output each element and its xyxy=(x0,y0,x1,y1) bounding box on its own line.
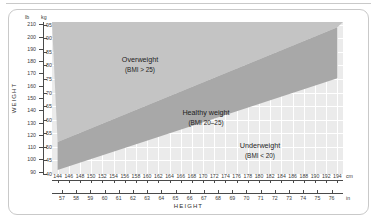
x-tick-in xyxy=(190,190,191,193)
x-tick-in xyxy=(332,190,333,193)
y-tick-lb xyxy=(39,123,44,124)
y-label-lb: 100 xyxy=(14,156,36,162)
y-tick-lb xyxy=(39,61,44,62)
y-label-lb: 110 xyxy=(14,144,36,150)
y-label-kg: 60 xyxy=(46,117,60,123)
region-label-overweight: Overweight (BMI > 25) xyxy=(92,55,188,75)
y-tick-lb xyxy=(39,172,44,173)
x-tick-cm xyxy=(259,180,260,183)
top-divider xyxy=(6,3,371,4)
y-tick-lb xyxy=(39,49,44,50)
x-tick-cm xyxy=(102,180,103,183)
y-tick-lb xyxy=(39,73,44,74)
x-tick-cm xyxy=(114,180,115,183)
region-label-underweight: Underweight (BMI < 20) xyxy=(208,141,312,161)
x-axis-unit-in: in xyxy=(346,195,350,201)
x-tick-cm xyxy=(237,180,238,183)
underweight-sublabel: (BMI < 20) xyxy=(208,151,312,160)
x-tick-in xyxy=(261,190,262,193)
plot-area: Overweight (BMI > 25) Healthy weight (BM… xyxy=(52,22,343,174)
bmi-chart-page: lb kg WEIGHT Overweight (BMI > 25) Healt… xyxy=(0,0,377,224)
healthy-label: Healthy weight xyxy=(156,108,256,118)
x-label-cm: 194 xyxy=(327,173,347,179)
x-axis-unit-cm: cm xyxy=(346,173,353,179)
x-tick-in xyxy=(232,190,233,193)
y-label-kg: 75 xyxy=(46,76,60,82)
x-tick-cm xyxy=(158,180,159,183)
x-tick-in xyxy=(176,190,177,193)
x-tick-in xyxy=(204,190,205,193)
x-tick-cm xyxy=(170,180,171,183)
y-tick-lb xyxy=(39,98,44,99)
healthy-sublabel: (BMI 20–25) xyxy=(156,118,256,127)
y-label-lb: 130 xyxy=(14,120,36,126)
x-tick-in xyxy=(76,190,77,193)
y-label-lb: 190 xyxy=(14,46,36,52)
x-tick-cm xyxy=(326,180,327,183)
x-tick-cm xyxy=(293,180,294,183)
y-tick-lb xyxy=(39,135,44,136)
y-label-kg: 50 xyxy=(46,144,60,150)
overweight-label: Overweight xyxy=(92,55,188,65)
x-tick-in xyxy=(289,190,290,193)
y-label-lb: 210 xyxy=(14,21,36,27)
y-label-lb: 200 xyxy=(14,34,36,40)
x-tick-cm xyxy=(270,180,271,183)
x-tick-in xyxy=(62,190,63,193)
y-axis-unit-lb: lb xyxy=(25,14,29,20)
x-tick-in xyxy=(246,190,247,193)
x-tick-in xyxy=(105,190,106,193)
x-tick-in xyxy=(218,190,219,193)
x-axis-line-in xyxy=(52,193,343,194)
x-tick-cm xyxy=(304,180,305,183)
x-tick-in xyxy=(317,190,318,193)
y-label-lb: 180 xyxy=(14,58,36,64)
x-tick-cm xyxy=(337,180,338,183)
y-label-kg: 85 xyxy=(46,49,60,55)
x-tick-in xyxy=(147,190,148,193)
x-tick-cm xyxy=(58,180,59,183)
x-tick-cm xyxy=(248,180,249,183)
x-tick-in xyxy=(90,190,91,193)
x-axis-line-cm xyxy=(52,180,343,181)
y-label-kg: 45 xyxy=(46,157,60,163)
y-label-lb: 170 xyxy=(14,70,36,76)
y-label-kg: 65 xyxy=(46,103,60,109)
x-tick-cm xyxy=(281,180,282,183)
y-axis-unit-kg: kg xyxy=(41,14,47,20)
y-label-kg: 95 xyxy=(46,22,60,28)
x-tick-in xyxy=(133,190,134,193)
y-label-lb: 160 xyxy=(14,83,36,89)
y-tick-lb xyxy=(39,86,44,87)
y-label-lb: 120 xyxy=(14,132,36,138)
x-tick-cm xyxy=(192,180,193,183)
x-tick-cm xyxy=(225,180,226,183)
x-label-in: 76 xyxy=(322,195,342,201)
y-tick-lb xyxy=(39,110,44,111)
x-tick-cm xyxy=(315,180,316,183)
x-tick-cm xyxy=(147,180,148,183)
x-tick-cm xyxy=(214,180,215,183)
y-label-lb: 140 xyxy=(14,107,36,113)
x-tick-cm xyxy=(125,180,126,183)
y-label-kg: 90 xyxy=(46,35,60,41)
x-tick-in xyxy=(119,190,120,193)
x-tick-in xyxy=(275,190,276,193)
y-label-kg: 55 xyxy=(46,130,60,136)
y-label-kg: 80 xyxy=(46,62,60,68)
x-tick-cm xyxy=(203,180,204,183)
region-label-healthy: Healthy weight (BMI 20–25) xyxy=(156,108,256,128)
x-tick-cm xyxy=(136,180,137,183)
x-tick-cm xyxy=(181,180,182,183)
x-tick-cm xyxy=(69,180,70,183)
underweight-label: Underweight xyxy=(208,141,312,151)
x-tick-cm xyxy=(80,180,81,183)
x-tick-in xyxy=(161,190,162,193)
x-tick-in xyxy=(303,190,304,193)
y-label-lb: 150 xyxy=(14,95,36,101)
y-label-lb: 90 xyxy=(14,169,36,175)
x-tick-cm xyxy=(91,180,92,183)
overweight-sublabel: (BMI > 25) xyxy=(92,65,188,74)
y-label-kg: 70 xyxy=(46,90,60,96)
x-axis-title: HEIGHT xyxy=(0,203,377,209)
